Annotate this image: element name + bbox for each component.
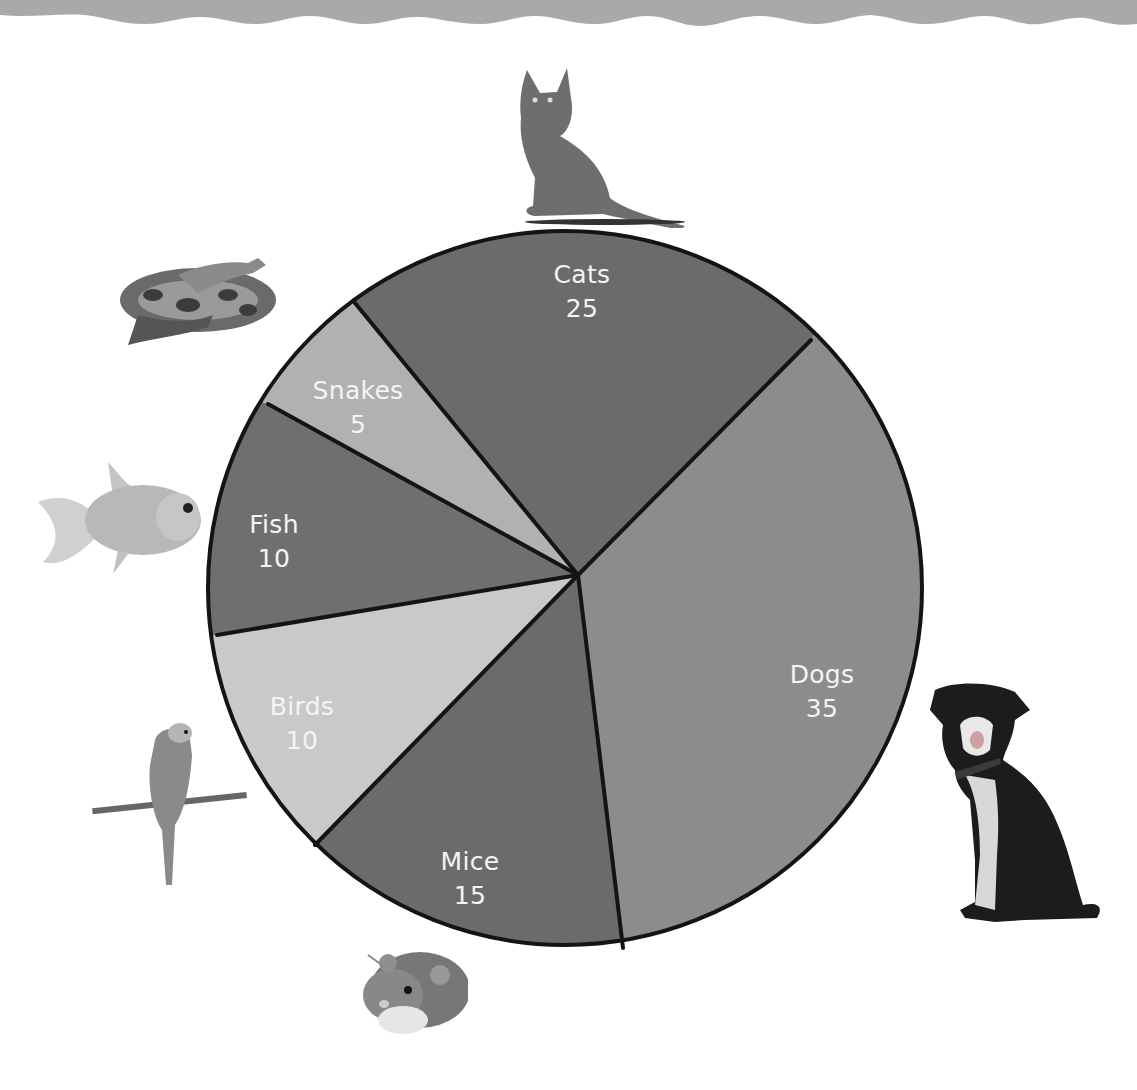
label-dogs-name: Dogs	[790, 658, 855, 692]
label-mice-value: 15	[441, 879, 500, 913]
mouse-photo	[348, 940, 468, 1055]
goldfish-photo	[38, 462, 203, 582]
label-fish-name: Fish	[249, 508, 299, 542]
budgie-photo	[90, 715, 250, 895]
label-fish-value: 10	[249, 542, 299, 576]
snake-photo	[118, 255, 283, 350]
label-fish: Fish 10	[249, 508, 299, 576]
pie-chart-figure: Cats 25 Dogs 35 Mice 15 Birds 10 Fish 10…	[0, 0, 1137, 1090]
label-cats-value: 25	[554, 292, 611, 326]
label-mice: Mice 15	[441, 845, 500, 913]
dog-photo	[925, 680, 1115, 930]
label-birds-value: 10	[270, 724, 334, 758]
label-cats: Cats 25	[554, 258, 611, 326]
label-birds-name: Birds	[270, 690, 334, 724]
label-birds: Birds 10	[270, 690, 334, 758]
label-cats-name: Cats	[554, 258, 611, 292]
label-snakes-name: Snakes	[313, 374, 404, 408]
label-dogs-value: 35	[790, 692, 855, 726]
label-mice-name: Mice	[441, 845, 500, 879]
label-dogs: Dogs 35	[790, 658, 855, 726]
label-snakes: Snakes 5	[313, 374, 404, 442]
cat-photo	[505, 58, 695, 228]
label-snakes-value: 5	[313, 408, 404, 442]
